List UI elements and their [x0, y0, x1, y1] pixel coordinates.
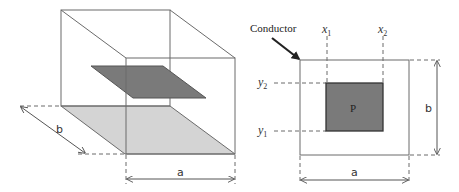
conductor-plate [91, 66, 206, 98]
conductor-arrow [272, 38, 299, 59]
ground-plane [61, 106, 235, 154]
conductor-label: Conductor [250, 22, 297, 34]
box-edge [170, 10, 235, 58]
box-edge [61, 10, 126, 58]
y1-label: y1 [257, 123, 267, 139]
y2-label: y2 [257, 75, 267, 91]
dim-b-label: b [56, 123, 63, 136]
x2-label: x2 [377, 22, 387, 38]
dim-b-label: b [425, 102, 432, 115]
dim-a-label: a [351, 166, 358, 179]
left-3d-box-diagram: b a [20, 10, 235, 184]
diagram-canvas: b a Conductor P x1 x2 y2 [0, 0, 459, 192]
plate-p-label: P [350, 102, 356, 114]
x1-label: x1 [321, 22, 331, 38]
dim-a-label: a [177, 166, 184, 179]
right-top-view-diagram: Conductor P x1 x2 y2 y1 b [250, 22, 440, 184]
